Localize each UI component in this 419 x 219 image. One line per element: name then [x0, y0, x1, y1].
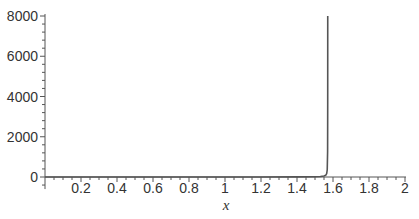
x-tick-label: 1 [221, 180, 229, 196]
x-axis-title: x [222, 197, 230, 213]
y-tick-label: 6000 [7, 48, 38, 64]
x-tick-label: 0.2 [71, 180, 91, 196]
y-tick-label: 4000 [7, 89, 38, 105]
x-tick-label: 1.8 [359, 180, 379, 196]
chart: 020004000600080000.20.40.60.811.21.41.61… [0, 0, 419, 219]
axes [45, 14, 406, 189]
x-tick-label: 2 [401, 180, 409, 196]
x-tick-label: 0.6 [143, 180, 163, 196]
data-curve [45, 16, 328, 177]
y-tick-label: 0 [30, 169, 38, 185]
x-tick-label: 1.6 [323, 180, 343, 196]
x-tick-label: 0.8 [179, 180, 199, 196]
tick-labels: 020004000600080000.20.40.60.811.21.41.61… [7, 8, 409, 196]
x-tick-label: 1.2 [251, 180, 271, 196]
y-tick-label: 8000 [7, 8, 38, 24]
y-tick-label: 2000 [7, 129, 38, 145]
ticks [40, 16, 405, 185]
x-tick-label: 1.4 [287, 180, 307, 196]
x-tick-label: 0.4 [107, 180, 127, 196]
